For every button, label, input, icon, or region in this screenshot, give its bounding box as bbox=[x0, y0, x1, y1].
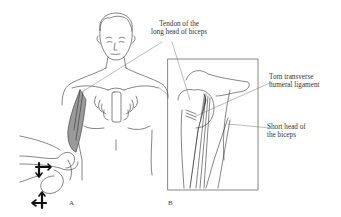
label-long-head-tendon: Tendon of the long head of biceps bbox=[151, 20, 207, 37]
biceps-muscle bbox=[68, 90, 86, 152]
panel-label-a: A bbox=[69, 199, 74, 207]
leader-lines bbox=[82, 42, 272, 128]
shoulder-inset-anatomy bbox=[178, 71, 249, 188]
panel-label-b: B bbox=[168, 199, 173, 207]
label-torn-ligament: Torn transverse humeral ligament bbox=[269, 73, 320, 90]
direction-arrows bbox=[32, 163, 51, 208]
patient-head bbox=[97, 13, 135, 68]
label-short-head: Short head of the biceps bbox=[267, 123, 306, 140]
